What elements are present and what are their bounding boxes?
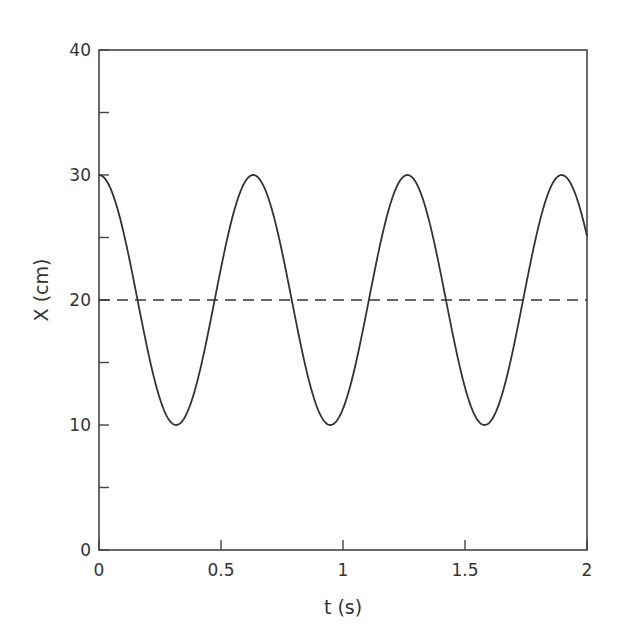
x-tick-label: 0: [94, 560, 105, 580]
y-axis-label: X (cm): [30, 259, 52, 322]
x-tick-label: 0.5: [207, 560, 234, 580]
y-tick-label: 10: [69, 415, 91, 435]
chart-svg: 010203040 00.511.52 t (s) X (cm): [0, 0, 619, 641]
x-axis-label: t (s): [324, 596, 362, 618]
plot-area: [99, 175, 587, 425]
x-axis: 00.511.52: [94, 540, 593, 580]
y-tick-label: 40: [69, 40, 91, 60]
x-tick-label: 1.5: [451, 560, 478, 580]
x-tick-label: 1: [338, 560, 349, 580]
y-tick-label: 20: [69, 290, 91, 310]
x-tick-label: 2: [582, 560, 593, 580]
y-tick-label: 0: [80, 540, 91, 560]
chart: 010203040 00.511.52 t (s) X (cm): [0, 0, 619, 641]
y-tick-label: 30: [69, 165, 91, 185]
